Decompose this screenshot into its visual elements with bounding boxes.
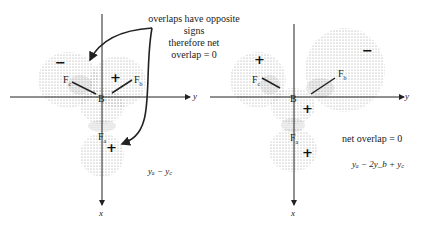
right-sign-fc: +: [254, 52, 265, 67]
right-axis-y: y: [405, 91, 409, 101]
left-equation: yₐ − y꜀: [148, 164, 172, 177]
left-annotation: overlaps have opposite signs therefore n…: [134, 13, 254, 61]
annotation-line-3: therefore net: [134, 37, 254, 49]
right-atom-b: B: [290, 93, 297, 104]
right-sign-fa: +: [302, 145, 313, 160]
left-sign-fb: +: [110, 70, 121, 85]
left-axis-x: x: [99, 208, 103, 218]
right-sign-fb: −: [362, 43, 373, 58]
left-atom-fc: Fc: [63, 74, 71, 87]
annotation-line-2: signs: [134, 25, 254, 37]
annotation-line-1: overlaps have opposite: [134, 13, 254, 25]
right-sign-center: +: [302, 101, 313, 116]
right-equation: yₐ − 2y_b + y꜀: [352, 157, 404, 170]
left-sign-fc: −: [55, 55, 66, 70]
left-atom-b: B: [98, 93, 105, 104]
left-axis-y: y: [193, 91, 197, 101]
right-atom-fb: Fb: [338, 68, 347, 81]
right-annotation: net overlap = 0: [342, 133, 402, 144]
annotation-line-4: overlap = 0: [134, 49, 254, 61]
left-atom-fb: Fb: [134, 74, 143, 87]
left-atom-fa: Fa: [98, 131, 106, 144]
right-atom-fc: Fc: [252, 74, 260, 87]
right-axis-x: x: [291, 208, 295, 218]
left-sign-fa: +: [106, 140, 117, 155]
left-lobes: [38, 52, 146, 177]
right-atom-fa: Fa: [290, 132, 298, 145]
